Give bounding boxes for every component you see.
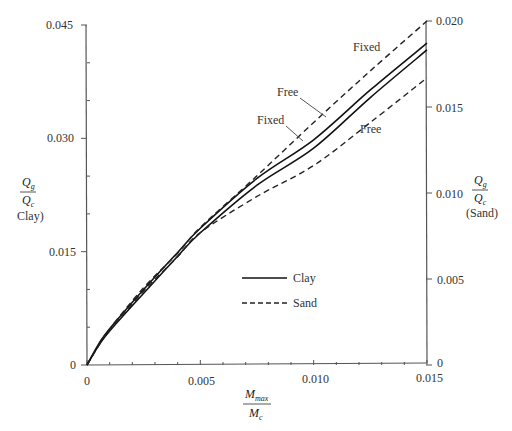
y-right-tick-0: 0 <box>437 356 443 370</box>
y-right-axis-label: Qg Qc (Sand) <box>466 173 498 220</box>
axes <box>86 21 427 365</box>
y-left-tick-0: 0 <box>70 358 76 372</box>
y-left-denominator: Qc <box>22 193 35 209</box>
x-tick-0.010: 0.010 <box>302 372 329 386</box>
y-left-tick-0.045: 0.045 <box>46 18 73 32</box>
y-right-denominator: Qc <box>474 191 487 207</box>
x-tick-0: 0 <box>84 374 90 388</box>
curve-clay-free <box>87 43 427 365</box>
x-denominator: Mc <box>248 406 263 422</box>
y-right-tick-0.015: 0.015 <box>436 101 463 115</box>
x-tick-0.015: 0.015 <box>416 371 443 385</box>
legend-sand-label: Sand <box>293 296 317 310</box>
y-right-tick-0.005: 0.005 <box>437 273 464 287</box>
y-right-numerator: Qg <box>474 173 487 189</box>
ticks <box>81 21 432 365</box>
x-axis-label: Mmax Mc <box>243 387 271 422</box>
x-numerator: Mmax <box>244 387 269 403</box>
legend: Clay Sand <box>242 271 317 310</box>
x-tick-0.005: 0.005 <box>188 374 215 388</box>
curve-clay-fixed <box>87 50 427 365</box>
y-left-numerator: Qg <box>22 175 35 191</box>
annotation-clay-free: Free <box>277 85 298 99</box>
annotation-clay-fixed: Fixed <box>257 113 284 127</box>
y-left-tick-0.030: 0.030 <box>47 131 74 145</box>
annotations: Fixed Free Fixed Free <box>257 40 381 141</box>
y-left-axis-label: Qg Qc Clay) <box>17 175 44 223</box>
y-right-tick-0.020: 0.020 <box>436 14 463 28</box>
y-right-tick-0.010: 0.010 <box>436 187 463 201</box>
y-left-note: Clay) <box>17 209 44 223</box>
y-left-tick-0.015: 0.015 <box>49 245 76 259</box>
y-right-note: (Sand) <box>466 206 498 220</box>
leader-clay-fixed <box>286 126 303 141</box>
chart: 0.045 0.030 0.015 0 0 0.005 0.010 0.015 … <box>0 0 512 431</box>
legend-clay-label: Clay <box>293 271 316 285</box>
curve-sand-fixed <box>87 21 427 365</box>
left-y-axis <box>86 25 87 365</box>
x-axis <box>87 363 427 365</box>
curves <box>87 21 427 365</box>
right-y-axis <box>426 21 427 363</box>
annotation-sand-free: Free <box>360 122 381 136</box>
leader-clay-free <box>300 98 326 117</box>
annotation-sand-fixed: Fixed <box>353 40 380 54</box>
